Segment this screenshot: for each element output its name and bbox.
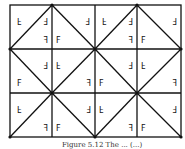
f-motif: F [141, 124, 146, 133]
f-motif: F [43, 60, 48, 69]
f-motif: F [128, 60, 133, 69]
figure-caption: Figure 5.12 The ... (...) [62, 141, 142, 149]
f-motif: F [99, 104, 104, 113]
f-motif: F [17, 104, 22, 113]
f-motifs: F F F F F F F F F F F F F F F F F F F F … [17, 16, 177, 133]
f-motif: F [17, 16, 22, 25]
f-motif: F [56, 124, 61, 133]
f-motif: F [43, 36, 48, 45]
pattern-diagram: F F F F F F F F F F F F F F F F F F F F … [0, 0, 185, 149]
f-motif: F [86, 104, 91, 113]
f-motif: F [43, 124, 48, 133]
f-motif: F [172, 104, 177, 113]
f-motif: F [128, 16, 133, 25]
f-motif: F [85, 16, 90, 25]
f-motif: F [172, 16, 177, 25]
f-motif: F [128, 36, 133, 45]
f-motif: F [128, 124, 133, 133]
grid-lines [10, 5, 181, 137]
f-motif: F [56, 60, 61, 69]
f-motif: F [43, 16, 48, 25]
f-motif: F [99, 79, 104, 88]
f-motif: F [86, 79, 91, 88]
f-motif: F [102, 16, 107, 25]
f-motif: F [172, 79, 177, 88]
f-motif: F [141, 36, 146, 45]
f-motif: F [17, 79, 22, 88]
f-motif: F [56, 36, 61, 45]
f-motif: F [141, 60, 146, 69]
